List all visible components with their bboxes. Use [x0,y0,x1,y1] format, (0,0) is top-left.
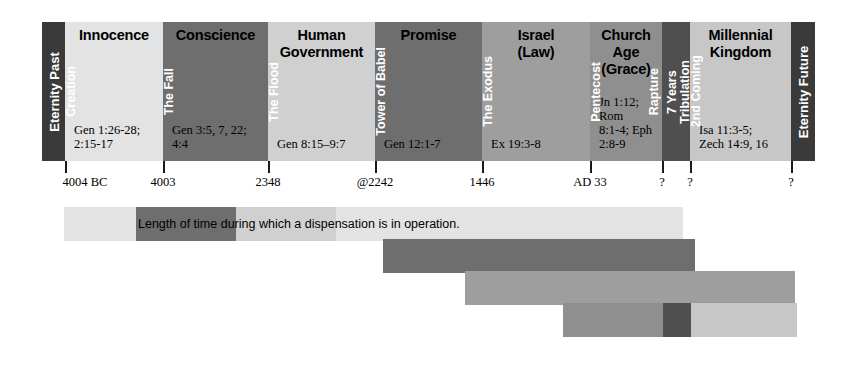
tick-4004bc [65,161,67,173]
tick-eternity-future-label: ? [788,175,794,190]
dispensation-title: Israel(Law) [482,27,590,61]
dispensation-human-government[interactable]: HumanGovernmentGen 8:15–9:7 [268,22,375,161]
tick-4004bc-label: 4004 BC [63,175,108,190]
dispensation-bar: InnocenceGen 1:26-28;2:15-17ConscienceGe… [42,22,815,161]
duration-row-3 [465,271,795,305]
eternity-past-cap: Eternity Past [42,22,65,161]
tick-1446-label: 1446 [470,175,495,190]
eternity-future-label: Eternity Future [796,45,811,137]
scripture-reference: Gen 3:5, 7, 22;4:4 [163,123,268,151]
tick-rapture-label: ? [659,175,665,190]
dispensation-innocence[interactable]: InnocenceGen 1:26-28;2:15-17 [65,22,163,161]
duration-row-1: Length of time during which a dispensati… [64,207,683,241]
scripture-reference: Jn 1:12; Rom8:1-4; Eph 2:8-9 [590,95,662,151]
dispensation-title: Conscience [163,27,268,44]
duration-row-2 [383,239,695,273]
dispensation-millennial-kingdom[interactable]: MillennialKingdomIsa 11:3-5;Zech 14:9, 1… [690,22,791,161]
dispensation-title: Church Age(Grace) [590,27,662,78]
tick-rapture [662,161,664,173]
dispensation-promise[interactable]: PromiseGen 12:1-7 [375,22,482,161]
timeline-diagram: InnocenceGen 1:26-28;2:15-17ConscienceGe… [0,0,852,365]
dispensation-title: HumanGovernment [268,27,375,61]
dispensation-title: MillennialKingdom [690,27,791,61]
tick-1446 [482,161,484,173]
scripture-reference: Isa 11:3-5;Zech 14:9, 16 [690,123,791,151]
scripture-reference: Gen 12:1-7 [375,137,482,151]
tick-2nd-coming [690,161,692,173]
dispensation-title: Promise [375,27,482,44]
dispensation-conscience[interactable]: ConscienceGen 3:5, 7, 22;4:4 [163,22,268,161]
tick-ad33 [590,161,592,173]
dur-church-age-band [563,303,663,337]
scripture-reference: Gen 1:26-28;2:15-17 [65,123,163,151]
tick-4003-label: 4003 [151,175,176,190]
eternity-future-cap: Eternity Future [791,22,815,161]
dur-israel-band [465,271,795,305]
tick-2348-label: 2348 [256,175,281,190]
dur-tribulation-band [663,303,691,337]
dur-promise-band [383,239,695,273]
dispensation-title: Innocence [65,27,163,44]
scripture-reference: Ex 19:3-8 [482,137,590,151]
tick-2348 [268,161,270,173]
tick-2242 [375,161,377,173]
dispensation-tribulation[interactable] [662,22,690,161]
dispensation-israel-law[interactable]: Israel(Law)Ex 19:3-8 [482,22,590,161]
tick-2242-label: @2242 [357,175,394,190]
duration-row-4 [563,303,797,337]
tick-eternity-future [791,161,793,173]
dispensation-church-age-grace[interactable]: Church Age(Grace)Jn 1:12; Rom8:1-4; Eph … [590,22,662,161]
dur-millennium-band [691,303,797,337]
eternity-past-label: Eternity Past [46,52,61,131]
duration-caption: Length of time during which a dispensati… [64,207,460,241]
scripture-reference: Gen 8:15–9:7 [268,137,375,151]
tick-2nd-coming-label: ? [687,175,693,190]
tick-ad33-label: AD 33 [573,175,607,190]
tick-4003 [163,161,165,173]
